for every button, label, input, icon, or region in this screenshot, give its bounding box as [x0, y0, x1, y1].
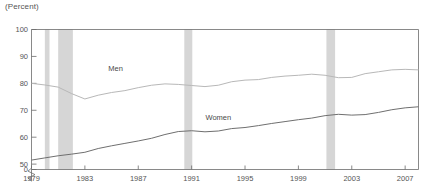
recession-band-recession-1981-1982 — [58, 30, 73, 170]
recession-band-recession-2001 — [326, 30, 335, 170]
y-tick-label-60: 60 — [20, 133, 28, 142]
y-tick-label-70: 70 — [20, 106, 28, 115]
y-tick-label-100: 100 — [15, 25, 28, 34]
series-label-women: Women — [205, 113, 231, 122]
series-label-men: Men — [108, 64, 123, 73]
line-chart-plot: 10090807060500 1979198319871991199519992… — [0, 0, 433, 192]
y-tick-label-80: 80 — [20, 79, 28, 88]
chart-figure: (Percent) 10090807060500 197919831987199… — [0, 0, 433, 192]
x-axis-tick-labels: 19791983198719911995199920032007 — [23, 174, 413, 183]
recession-band-recession-1980 — [45, 30, 50, 170]
x-tick-label-1999: 1999 — [290, 174, 307, 183]
x-tick-label-1995: 1995 — [237, 174, 254, 183]
plot-frame — [28, 30, 419, 182]
recession-band-recession-1990-1991 — [184, 30, 192, 170]
series-line-men — [32, 69, 419, 99]
shaded-recession-bands — [45, 30, 335, 170]
y-axis-tick-labels: 10090807060500 — [15, 25, 28, 174]
y-tick-label-90: 90 — [20, 52, 28, 61]
x-tick-label-1991: 1991 — [183, 174, 200, 183]
x-tick-label-2007: 2007 — [397, 174, 414, 183]
series-annotations: Men Women — [108, 64, 231, 121]
x-tick-label-1987: 1987 — [130, 174, 147, 183]
y-axis-ticks — [32, 30, 37, 170]
x-tick-label-1979: 1979 — [23, 174, 40, 183]
x-axis-ticks — [32, 166, 406, 170]
x-tick-label-1983: 1983 — [77, 174, 94, 183]
x-tick-label-2003: 2003 — [343, 174, 360, 183]
